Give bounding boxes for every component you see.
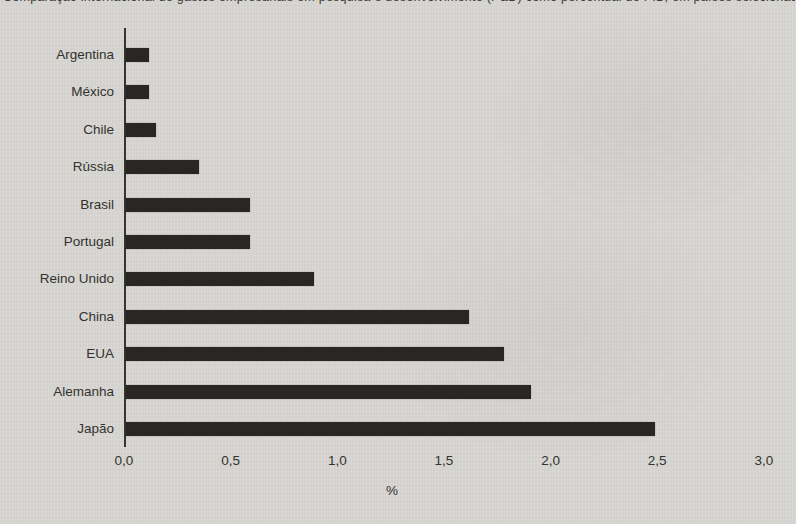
category-label: Rússia [0, 158, 114, 176]
bar [126, 347, 504, 361]
bar [126, 235, 250, 249]
x-tick-label: 0,5 [201, 453, 261, 468]
x-tick-label: 1,0 [307, 453, 367, 468]
bar [126, 48, 149, 62]
category-label: China [0, 308, 114, 326]
x-tick-label: 3,0 [734, 453, 794, 468]
bar [126, 85, 149, 99]
x-tick-label: 2,5 [627, 453, 687, 468]
x-tick-label: 0,0 [94, 453, 154, 468]
x-tick-label: 2,0 [521, 453, 581, 468]
x-tick-label: 1,5 [414, 453, 474, 468]
category-label: Portugal [0, 233, 114, 251]
bar [126, 272, 314, 286]
x-axis-label: % [375, 483, 409, 498]
bar [126, 385, 531, 399]
category-label: México [0, 83, 114, 101]
horizontal-bar-chart: ArgentinaMéxicoChileRússiaBrasilPortugal… [0, 0, 796, 524]
chart-title-clipped: Comparação internacional de gastos empre… [3, 0, 795, 6]
bar [126, 310, 469, 324]
bar [126, 422, 655, 436]
category-label: Argentina [0, 46, 114, 64]
category-label: EUA [0, 345, 114, 363]
category-label: Chile [0, 121, 114, 139]
category-label: Reino Unido [0, 270, 114, 288]
bar [126, 123, 156, 137]
category-label: Alemanha [0, 383, 114, 401]
bar [126, 198, 250, 212]
category-label: Brasil [0, 196, 114, 214]
category-label: Japão [0, 420, 114, 438]
chart-title-text: Comparação internacional de gastos empre… [3, 0, 795, 4]
bar [126, 160, 199, 174]
